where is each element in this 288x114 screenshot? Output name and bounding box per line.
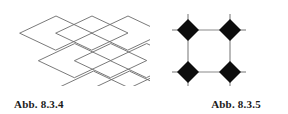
- diamond-top-right: [219, 19, 241, 41]
- diamond-bottom-left: [177, 61, 199, 83]
- rhombic-lattice-drawing: [0, 4, 150, 86]
- figure-caption-left: Abb. 8.3.4: [0, 98, 150, 110]
- figure-page: Abb. 8.3.4 Abb. 8.3.5: [0, 0, 288, 114]
- diamond-top-left: [177, 19, 199, 41]
- diamond-bottom-right: [219, 61, 241, 83]
- lattice-rhombus: [92, 16, 150, 50]
- diamond-square-drawing: [150, 4, 288, 86]
- figure-abb-8-3-4: Abb. 8.3.4: [0, 0, 150, 114]
- black-diamonds: [177, 19, 241, 83]
- lattice-lines: [20, 16, 150, 86]
- figure-abb-8-3-5: Abb. 8.3.5: [150, 0, 288, 114]
- figure-caption-right: Abb. 8.3.5: [150, 98, 288, 110]
- lattice-rhombus: [129, 71, 150, 86]
